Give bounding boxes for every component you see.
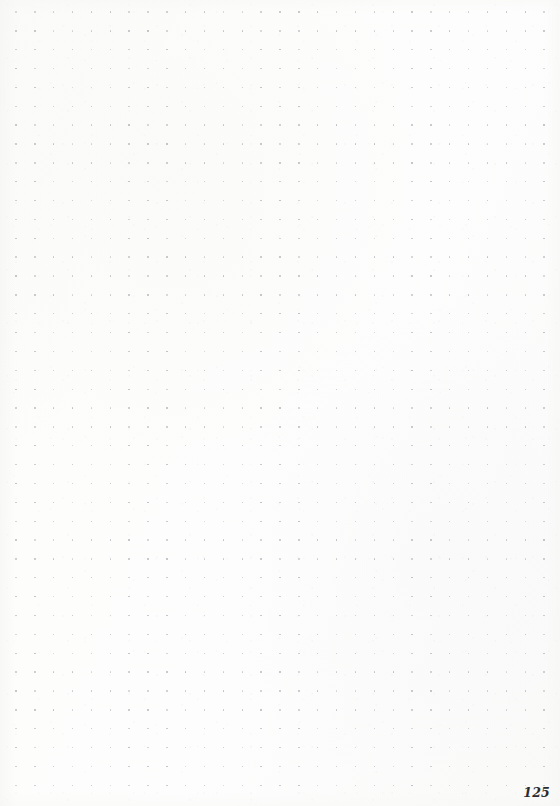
- grid-dot: [355, 256, 356, 257]
- grid-dot: [185, 747, 186, 748]
- grid-dot: [317, 690, 318, 691]
- grid-dot: [15, 370, 16, 371]
- grid-dot: [260, 615, 261, 616]
- grid-dot: [336, 747, 337, 748]
- grid-dot: [260, 502, 261, 503]
- grid-dot: [336, 596, 337, 597]
- grid-dot: [110, 558, 111, 559]
- grid-dot: [355, 445, 356, 446]
- grid-dot: [166, 426, 167, 427]
- grid-dot: [298, 596, 299, 597]
- grid-dot: [147, 671, 148, 672]
- grid-dot: [449, 275, 450, 276]
- grid-dot: [72, 106, 73, 107]
- grid-dot: [53, 370, 54, 371]
- grid-dot: [147, 747, 148, 748]
- grid-dot: [91, 389, 92, 390]
- grid-dot: [260, 351, 261, 352]
- grid-dot: [298, 124, 299, 125]
- grid-dot: [355, 200, 356, 201]
- grid-dot: [374, 426, 375, 427]
- grid-dot: [487, 766, 488, 767]
- grid-dot: [166, 162, 167, 163]
- grid-dot: [317, 596, 318, 597]
- grid-dot: [487, 464, 488, 465]
- grid-dot: [15, 124, 16, 125]
- grid-dot: [374, 502, 375, 503]
- grid-dot: [355, 238, 356, 239]
- grid-dot: [34, 615, 35, 616]
- grid-dot: [72, 370, 73, 371]
- grid-dot: [279, 106, 280, 107]
- grid-dot: [279, 747, 280, 748]
- grid-dot: [317, 502, 318, 503]
- grid-dot: [72, 596, 73, 597]
- grid-dot: [166, 238, 167, 239]
- grid-dot: [506, 558, 507, 559]
- grid-dot: [128, 124, 129, 125]
- grid-dot: [317, 539, 318, 540]
- grid-dot: [317, 256, 318, 257]
- grid-dot: [34, 294, 35, 295]
- grid-dot: [487, 728, 488, 729]
- grid-dot: [260, 370, 261, 371]
- grid-dot: [53, 389, 54, 390]
- grid-dot: [525, 483, 526, 484]
- grid-dot: [468, 577, 469, 578]
- grid-dot: [430, 143, 431, 144]
- grid-dot: [185, 294, 186, 295]
- grid-dot: [279, 709, 280, 710]
- grid-dot: [15, 766, 16, 767]
- grid-dot: [223, 49, 224, 50]
- grid-dot: [336, 332, 337, 333]
- grid-dot: [72, 690, 73, 691]
- grid-dot: [204, 106, 205, 107]
- grid-dot: [242, 709, 243, 710]
- grid-dot: [317, 106, 318, 107]
- grid-dot: [110, 596, 111, 597]
- grid-dot: [128, 407, 129, 408]
- grid-dot: [374, 11, 375, 12]
- grid-dot: [487, 294, 488, 295]
- grid-dot: [317, 370, 318, 371]
- grid-dot: [374, 87, 375, 88]
- grid-dot: [147, 577, 148, 578]
- grid-dot: [543, 200, 544, 201]
- grid-dot: [72, 256, 73, 257]
- grid-dot: [374, 407, 375, 408]
- grid-dot: [317, 785, 318, 786]
- grid-dot: [147, 11, 148, 12]
- grid-dot: [279, 162, 280, 163]
- grid-dot: [430, 200, 431, 201]
- grid-dot: [15, 653, 16, 654]
- grid-dot: [128, 68, 129, 69]
- grid-dot: [393, 68, 394, 69]
- grid-dot: [279, 577, 280, 578]
- grid-dot: [260, 445, 261, 446]
- grid-dot: [393, 709, 394, 710]
- grid-dot: [91, 200, 92, 201]
- grid-dot: [298, 785, 299, 786]
- grid-dot: [468, 256, 469, 257]
- grid-dot: [298, 728, 299, 729]
- grid-dot: [468, 558, 469, 559]
- grid-dot: [506, 596, 507, 597]
- grid-dot: [468, 464, 469, 465]
- grid-dot: [430, 615, 431, 616]
- grid-dot: [336, 407, 337, 408]
- grid-dot: [336, 256, 337, 257]
- grid-dot: [166, 483, 167, 484]
- grid-dot: [506, 389, 507, 390]
- grid-dot: [468, 11, 469, 12]
- grid-dot: [91, 785, 92, 786]
- grid-dot: [506, 332, 507, 333]
- grid-dot: [525, 426, 526, 427]
- grid-dot: [110, 483, 111, 484]
- grid-dot: [487, 426, 488, 427]
- grid-dot: [34, 785, 35, 786]
- grid-dot: [393, 200, 394, 201]
- grid-dot: [449, 106, 450, 107]
- grid-dot: [336, 294, 337, 295]
- grid-dot: [91, 558, 92, 559]
- grid-dot: [15, 709, 16, 710]
